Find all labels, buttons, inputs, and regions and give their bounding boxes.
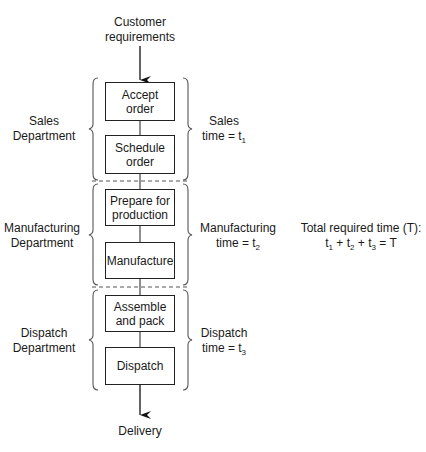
dept-label-dispatch: Dispatch Department [0,326,88,356]
left-brace-dispatch [89,290,98,390]
time-label-sales: Sales time = t1 [194,114,254,144]
left-brace-sales [89,78,98,180]
dept-label-sales: Sales Department [0,114,88,144]
time-label-dispatch: Dispatch time = t3 [194,326,254,356]
step-accept-order: Acceptorder [105,82,175,121]
right-brace-dispatch [183,290,192,390]
step-dispatch: Dispatch [105,347,175,385]
right-brace-manufacturing [183,184,192,285]
step-manufacture: Manufacture [105,242,175,279]
total-time-title: Total required time (T): [296,221,426,236]
dept-label-manufacturing: Manufacturing Department [0,221,88,251]
step-schedule-order: Scheduleorder [105,135,175,174]
right-brace-sales [183,78,192,180]
input-label-line2: requirements [90,30,190,45]
time-label-manufacturing: Manufacturing time = t2 [194,221,282,251]
left-brace-manufacturing [89,184,98,285]
output-label: Delivery [100,424,180,439]
total-time-formula: Total required time (T): t1 + t2 + t3 = … [296,221,426,251]
step-prepare-for-production: Prepare forproduction [105,189,175,226]
input-label-line1: Customer [90,15,190,30]
step-assemble-and-pack: Assembleand pack [105,295,175,332]
input-label: Customer requirements [90,15,190,45]
total-time-equation: t1 + t2 + t3 = T [296,236,426,251]
